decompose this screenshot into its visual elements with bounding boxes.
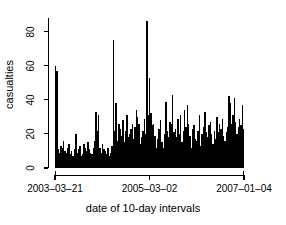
x-tick bbox=[54, 175, 55, 180]
y-tick-label-text: 80 bbox=[25, 26, 37, 37]
y-tick-label-text: 60 bbox=[25, 60, 37, 71]
y-axis-label-text: casualties bbox=[4, 60, 15, 109]
y-tick-label-text: 20 bbox=[25, 128, 37, 139]
y-axis-label: casualties bbox=[2, 0, 16, 168]
bar bbox=[243, 129, 244, 168]
y-tick bbox=[44, 31, 48, 32]
y-tick bbox=[44, 65, 48, 66]
plot-area bbox=[55, 18, 244, 168]
y-tick-label: 20 bbox=[22, 128, 40, 140]
bar-series bbox=[55, 18, 244, 168]
y-tick-label: 60 bbox=[22, 60, 40, 72]
x-tick-label: 2003–03–21 bbox=[27, 183, 83, 195]
x-tick-label: 2005–03–02 bbox=[122, 183, 178, 195]
y-tick-label: 40 bbox=[22, 94, 40, 106]
y-tick-label: 80 bbox=[22, 26, 40, 38]
y-tick-label-text: 40 bbox=[25, 94, 37, 105]
x-tick-label: 2007–01–04 bbox=[216, 183, 272, 195]
x-tick bbox=[149, 175, 150, 180]
chart-figure: casualties 020406080 2003–03–212005–03–0… bbox=[0, 0, 286, 225]
y-axis-line bbox=[48, 18, 49, 168]
x-axis-label: date of 10-day intervals bbox=[0, 202, 286, 215]
y-tick-label-text: 0 bbox=[25, 165, 37, 171]
y-tick-label: 0 bbox=[22, 162, 40, 174]
y-tick bbox=[44, 133, 48, 134]
y-tick bbox=[44, 167, 48, 168]
y-tick bbox=[44, 99, 48, 100]
x-tick bbox=[243, 175, 244, 180]
